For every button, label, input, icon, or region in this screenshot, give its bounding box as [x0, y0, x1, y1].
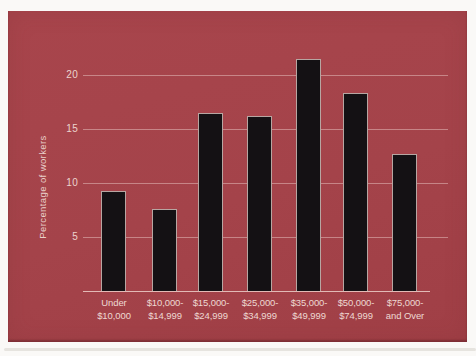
chart-card: Percentage of workers 5101520Under $10,0… — [8, 11, 467, 342]
bar-2 — [152, 209, 177, 291]
gridline — [83, 75, 448, 76]
y-tick-label: 20 — [40, 69, 78, 81]
screenshot-root: { "page": { "background": "#faf9f7" }, "… — [0, 0, 476, 356]
y-tick-label: 10 — [40, 177, 78, 189]
bar-4 — [247, 116, 272, 291]
scan-shadow — [4, 348, 476, 351]
bar-5 — [296, 59, 321, 291]
bar-1 — [101, 191, 126, 291]
bar-6 — [343, 93, 368, 291]
x-tick-label: $75,000- and Over — [374, 297, 436, 322]
x-axis-baseline — [83, 291, 430, 292]
bar-3 — [198, 113, 223, 291]
scanned-page: Percentage of workers 5101520Under $10,0… — [0, 0, 476, 356]
plot-area: 5101520Under $10,000$10,000- $14,999$15,… — [8, 11, 467, 342]
y-tick-label: 5 — [40, 231, 78, 243]
bar-7 — [392, 154, 417, 291]
y-tick-label: 15 — [40, 123, 78, 135]
